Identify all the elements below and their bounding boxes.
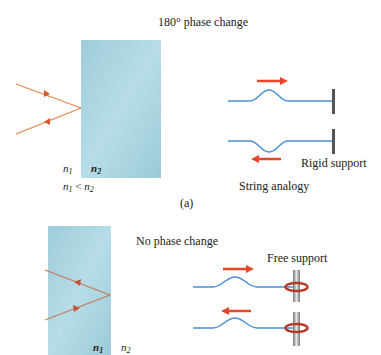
n1-label-bottom: n1 (93, 341, 103, 355)
free-support-lower (286, 312, 308, 346)
n1-subscript: 1 (69, 167, 73, 176)
rigid-string-lower (228, 129, 335, 154)
panel-a-title: 180° phase change (158, 15, 248, 30)
rigid-support-lower (332, 129, 335, 154)
string-analogy-label: String analogy (239, 179, 309, 194)
n2-label-top: n2 (91, 162, 101, 176)
arrow-left-lower (251, 155, 281, 163)
n2-subscript-bottom: 2 (127, 346, 131, 355)
inequality-op: < (73, 180, 85, 192)
rigid-support-label: Rigid support (301, 156, 367, 171)
rigid-string-upper (228, 89, 335, 114)
ray-arrowheads-top (44, 90, 50, 125)
rigid-support-upper (332, 89, 335, 114)
free-string-lower (193, 318, 296, 328)
free-support-label: Free support (267, 251, 327, 266)
slab-n1-bottom (48, 226, 111, 355)
caption-a: (a) (180, 196, 193, 211)
index-inequality: n1 < n2 (63, 180, 94, 194)
slab-n2-top (81, 40, 161, 178)
free-support-upper (286, 270, 308, 302)
arrow-left-bottom (221, 307, 251, 315)
light-rays-top (16, 84, 81, 134)
inequality-rhs-sub: 2 (90, 185, 94, 194)
n1-label-top: n1 (63, 162, 73, 176)
diagram-canvas (0, 0, 381, 355)
free-string-upper (193, 277, 296, 287)
n2-subscript: 2 (97, 167, 101, 176)
arrow-right-bottom (223, 265, 254, 273)
panel-b-title: No phase change (136, 234, 218, 249)
arrow-right-upper (257, 77, 288, 85)
n1-subscript-bottom: 1 (99, 346, 103, 355)
n2-label-bottom: n2 (121, 341, 131, 355)
